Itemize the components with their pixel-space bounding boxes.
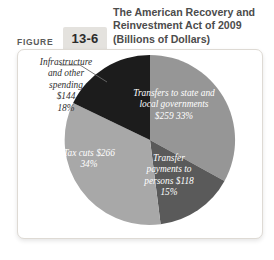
pie-label-line-2: and other [22, 68, 110, 79]
pie-label-percent: 34% [80, 159, 97, 169]
pie-label-value: $266 [96, 148, 115, 158]
figure-header: FIGURE 13-6 The American Recovery and Re… [0, 0, 274, 52]
figure-number-box: 13-6 [63, 27, 107, 49]
figure-title: The American Recovery and Reinvestment A… [113, 6, 271, 46]
pie-label-value: $118 [176, 176, 194, 186]
pie-label-line-1: Infrastructure [40, 57, 92, 67]
chart-panel: Infrastructure and other spending $144 1… [17, 49, 263, 239]
figure-container: FIGURE 13-6 The American Recovery and Re… [0, 0, 274, 260]
pie-label-percent: 18% [22, 103, 110, 114]
figure-number-label: 13-6 [72, 31, 99, 46]
pie-label-line-2: payments [146, 164, 181, 174]
pie-label-infrastructure-and-other-spending: Infrastructure and other spending $144 1… [22, 57, 110, 114]
pie-label-line-1: Transfer [153, 153, 185, 163]
pie-label-transfers-to-state-and-local-governments: Transfers to state and local governments… [130, 88, 218, 122]
pie-label-value: $144 [22, 91, 110, 102]
pie-label-transfer-payments-to-persons: Transfer payments to persons $118 15% [136, 153, 202, 199]
pie-label-line-1: Tax cuts [63, 148, 94, 158]
pie-label-line-1: Transfers to [133, 88, 178, 98]
pie-label-line-3: spending [22, 80, 110, 91]
pie-label-percent: 33% [176, 111, 193, 121]
pie-label-tax-cuts: Tax cuts $266 34% [58, 148, 120, 171]
pie-label-line-3: governments [161, 99, 209, 109]
pie-label-percent: 15% [160, 187, 177, 197]
figure-word-label: FIGURE [17, 37, 53, 47]
pie-label-value: $259 [155, 111, 174, 121]
